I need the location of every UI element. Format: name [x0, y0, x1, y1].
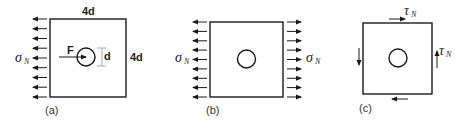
hole-c — [389, 49, 407, 67]
caption-a: (a) — [45, 104, 58, 116]
normal-stress-label-b-left: σ — [175, 50, 183, 65]
right-stress-arrows-b — [287, 22, 301, 97]
shear-label-top: τ — [404, 3, 410, 18]
panel-c: τ N τ N (c) — [359, 3, 452, 114]
panel-a: F d 4d 4d σ N (a) — [15, 5, 143, 116]
plate-a — [50, 19, 126, 97]
width-label: 4d — [82, 5, 95, 17]
panel-b: σ N σ N (b) — [175, 22, 321, 116]
normal-stress-label-a: σ — [15, 50, 23, 65]
normal-stress-subscript-b-right: N — [314, 57, 321, 66]
normal-stress-label-b-right: σ — [306, 50, 314, 65]
shear-subscript-top: N — [410, 10, 417, 19]
plate-c — [363, 23, 432, 94]
shear-subscript-right: N — [445, 50, 452, 59]
hole-b — [238, 50, 256, 68]
plate-b — [210, 22, 283, 97]
shear-label-right: τ — [439, 43, 445, 58]
caption-c: (c) — [359, 102, 372, 114]
height-label: 4d — [130, 51, 143, 63]
normal-stress-subscript-b-left: N — [183, 57, 190, 66]
hole-diameter-label: d — [104, 50, 111, 62]
force-label: F — [67, 44, 74, 56]
left-stress-arrows-b — [193, 22, 207, 97]
normal-stress-subscript-a: N — [23, 57, 30, 66]
left-stress-arrows-a — [33, 19, 47, 97]
caption-b: (b) — [206, 104, 219, 116]
diagram-canvas: F d 4d 4d σ N (a) — [0, 0, 466, 125]
